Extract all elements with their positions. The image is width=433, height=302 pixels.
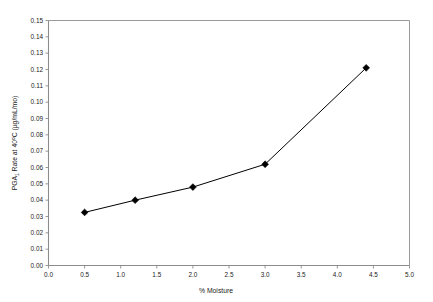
y-tick-label: 0.04	[31, 196, 44, 203]
y-tick-label: 0.07	[31, 147, 44, 154]
y-tick-label: 0.09	[31, 115, 44, 122]
x-tick-label: 4.0	[333, 271, 342, 278]
y-tick-label: 0.14	[31, 33, 44, 40]
y-tick-label: 0.10	[31, 98, 44, 105]
x-axis-title: % Moisture	[199, 287, 233, 294]
y-tick-label: 0.03	[31, 213, 44, 220]
y-tick-label: 0.12	[31, 66, 44, 73]
chart-background	[0, 0, 433, 302]
y-tick-label: 0.15	[31, 17, 44, 24]
y-tick-label: 0.06	[31, 164, 44, 171]
y-tick-label: 0.01	[31, 245, 44, 252]
x-tick-label: 1.0	[116, 271, 125, 278]
line-chart: 0.000.010.020.030.040.050.060.070.080.09…	[0, 0, 433, 302]
y-tick-label: 0.08	[31, 131, 44, 138]
x-tick-label: 5.0	[405, 271, 414, 278]
x-tick-label: 0.5	[80, 271, 89, 278]
x-tick-label: 2.0	[188, 271, 197, 278]
x-tick-label: 2.5	[225, 271, 234, 278]
y-tick-label: 0.11	[31, 82, 43, 89]
y-tick-label: 0.05	[31, 180, 44, 187]
x-tick-label: 3.5	[297, 271, 306, 278]
x-tick-label: 4.5	[369, 271, 378, 278]
chart-container: 0.000.010.020.030.040.050.060.070.080.09…	[0, 0, 433, 302]
x-tick-label: 0.0	[44, 271, 53, 278]
x-tick-label: 3.0	[261, 271, 270, 278]
y-tick-label: 0.02	[31, 229, 44, 236]
y-tick-label: 0.13	[31, 49, 44, 56]
x-tick-label: 1.5	[152, 271, 161, 278]
y-tick-label: 0.00	[31, 262, 44, 269]
